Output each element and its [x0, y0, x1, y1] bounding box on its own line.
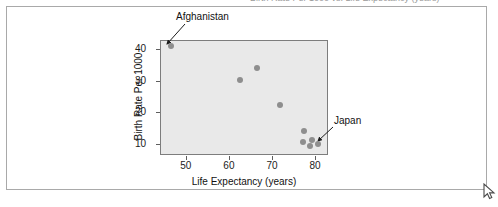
y-tick-mark — [156, 81, 160, 82]
annotation-afghanistan: Afghanistan — [176, 11, 229, 22]
arrow-cursor — [483, 183, 497, 201]
data-point-japan — [315, 141, 321, 147]
plot-area — [160, 40, 328, 155]
data-point — [300, 139, 306, 145]
y-tick-label: 10 — [106, 139, 146, 149]
y-tick-mark — [156, 49, 160, 50]
x-tick-label: 80 — [300, 161, 330, 171]
y-tick-label: 20 — [106, 107, 146, 117]
y-tick-label: 40 — [106, 44, 146, 54]
scatter-chart-figure: Birth Rate Per 1000 Life Expectancy (yea… — [0, 0, 498, 207]
y-tick-mark — [156, 112, 160, 113]
x-tick-label: 60 — [214, 161, 244, 171]
y-tick-label: 30 — [106, 76, 146, 86]
annotation-japan: Japan — [334, 115, 361, 126]
page-canvas: Birth Rate Per 1000 vs. Life Expectancy … — [0, 0, 498, 207]
x-tick-label: 50 — [171, 161, 201, 171]
y-tick-mark — [156, 144, 160, 145]
x-axis-title: Life Expectancy (years) — [160, 176, 328, 187]
x-tick-label: 70 — [257, 161, 287, 171]
